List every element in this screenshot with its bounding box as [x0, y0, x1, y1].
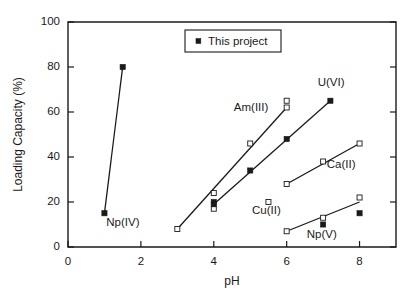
- data-point-open-amiii: [248, 141, 253, 146]
- legend-label: This project: [208, 35, 268, 47]
- data-point-open-caii: [284, 182, 289, 187]
- series-label-cuii: Cu(II): [252, 204, 281, 216]
- series-labels: Np(IV)Am(III)U(VI)Ca(II)Cu(II)Np(V): [106, 76, 355, 240]
- series-line-uvi: [214, 101, 331, 205]
- x-tick-label: 2: [138, 255, 144, 267]
- chart-legend: This project: [185, 30, 281, 52]
- loading-capacity-vs-ph-chart: 02040608010002468 Np(IV)Am(III)U(VI)Ca(I…: [0, 0, 414, 291]
- data-point-filled-npv: [357, 211, 362, 216]
- data-point-filled-uvi: [284, 136, 289, 141]
- y-axis-title: Loading Capacity (%): [11, 77, 25, 192]
- chart-axes: [68, 22, 396, 247]
- data-point-filled-npiv: [120, 64, 125, 69]
- data-point-filled-uvi: [248, 168, 253, 173]
- legend-marker-filled-square: [196, 39, 201, 44]
- data-point-open-caii: [321, 159, 326, 164]
- data-point-open-npv: [321, 215, 326, 220]
- data-point-filled-uvi: [211, 202, 216, 207]
- data-point-open-npv: [357, 195, 362, 200]
- data-point-filled-npv: [321, 222, 326, 227]
- data-point-open-caii: [357, 141, 362, 146]
- axis-ticks: [68, 22, 396, 247]
- series-label-amiii: Am(III): [234, 101, 269, 113]
- chart-figure: 02040608010002468 Np(IV)Am(III)U(VI)Ca(I…: [0, 0, 414, 291]
- data-series: [102, 64, 362, 233]
- series-line-npiv: [104, 67, 122, 213]
- x-tick-label: 0: [65, 255, 71, 267]
- data-point-open-amiii: [175, 227, 180, 232]
- plot-frame: [68, 22, 396, 247]
- series-label-npiv: Np(IV): [106, 216, 139, 228]
- series-label-npv: Np(V): [307, 228, 337, 240]
- x-tick-label: 4: [211, 255, 218, 267]
- y-tick-label: 100: [41, 15, 60, 27]
- data-point-open-amiii: [284, 98, 289, 103]
- data-point-open-npv: [284, 229, 289, 234]
- data-point-open-amiii: [284, 105, 289, 110]
- y-tick-label: 80: [47, 60, 60, 72]
- x-tick-label: 6: [283, 255, 289, 267]
- data-point-open-amiii: [211, 191, 216, 196]
- y-tick-label: 20: [47, 195, 60, 207]
- y-tick-label: 40: [47, 150, 60, 162]
- x-tick-label: 8: [356, 255, 362, 267]
- x-axis-title: pH: [224, 274, 239, 288]
- series-label-uvi: U(VI): [318, 76, 345, 88]
- y-tick-label: 0: [54, 240, 60, 252]
- series-label-caii: Ca(II): [327, 158, 356, 170]
- y-tick-label: 60: [47, 105, 60, 117]
- data-point-filled-uvi: [328, 98, 333, 103]
